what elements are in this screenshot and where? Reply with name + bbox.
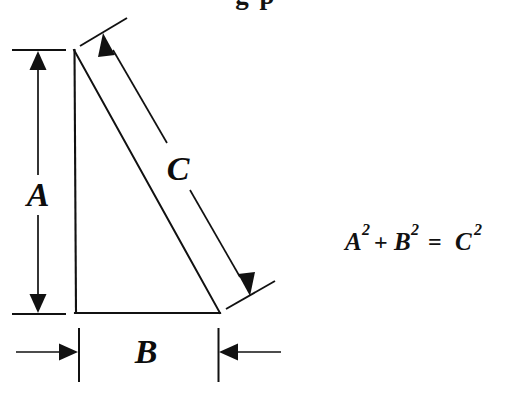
- equation-operator-plus: +: [374, 229, 388, 255]
- figure-root: g p A: [0, 0, 512, 396]
- arrow-right-icon: [59, 344, 78, 361]
- arrow-down-icon: [30, 294, 47, 313]
- dimension-c-shaft-upper: [113, 50, 167, 143]
- equation-term-a-base: A: [343, 228, 362, 255]
- arrow-left-icon: [219, 344, 238, 361]
- dimension-a: A: [12, 50, 66, 314]
- label-side-a: A: [25, 176, 50, 213]
- equation-term-b-base: B: [393, 228, 411, 255]
- arrow-up-icon: [30, 51, 47, 70]
- dimension-c-shaft-lower: [190, 190, 240, 277]
- arrow-diagonal-up-icon: [98, 33, 115, 57]
- equation-term-b-exponent: 2: [410, 221, 419, 238]
- dimension-c: C: [80, 18, 275, 309]
- triangle-shape: [74, 50, 220, 313]
- dimension-b: B: [16, 328, 281, 382]
- equation-term-c-base: C: [455, 228, 472, 255]
- equation-operator-equals: =: [428, 229, 442, 255]
- label-side-c: C: [167, 150, 190, 187]
- equation-term-a-exponent: 2: [361, 221, 370, 238]
- triangle-leg-vertical: [75, 50, 77, 313]
- pythagorean-theorem-diagram: A B: [0, 0, 512, 396]
- equation-term-c-exponent: 2: [473, 221, 482, 238]
- arrow-diagonal-down-icon: [238, 272, 255, 296]
- label-side-b: B: [134, 333, 158, 370]
- triangle-hypotenuse: [74, 50, 220, 313]
- pythagorean-equation: A 2 + B 2 = C 2: [343, 221, 482, 255]
